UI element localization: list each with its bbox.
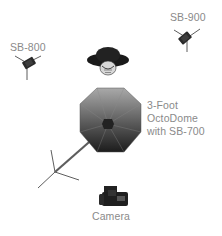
- stand-leg: [55, 172, 79, 180]
- stand-leg: [51, 150, 55, 172]
- camera-label: Camera: [92, 210, 130, 222]
- octodome-softbox-icon: [80, 88, 141, 152]
- sb800-flash-stand: [15, 56, 41, 80]
- face: [100, 61, 116, 75]
- flash-icon: [22, 57, 36, 70]
- subject-person-icon: [87, 47, 129, 75]
- flash-icon: [178, 31, 192, 45]
- sb900-label: SB-900: [170, 11, 206, 23]
- octodome-label-line3: with SB-700: [147, 125, 205, 138]
- hat-crown: [96, 47, 120, 63]
- sb800-label: SB-800: [10, 41, 46, 53]
- stand-leg: [38, 172, 55, 188]
- octodome-label: 3-Foot OctoDome with SB-700: [147, 99, 205, 138]
- octodome-label-line1: 3-Foot: [147, 99, 205, 112]
- speedring: [102, 119, 114, 129]
- sb900-flash-stand: [174, 29, 200, 52]
- octodome-label-line2: OctoDome: [147, 112, 205, 125]
- camera-icon: [99, 186, 128, 206]
